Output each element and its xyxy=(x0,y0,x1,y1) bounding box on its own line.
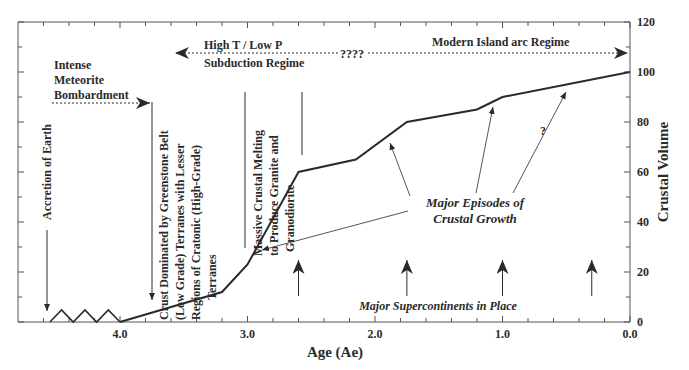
crustal-growth-chart: 4.03.02.01.00.0 020406080100120 Age (Ae)… xyxy=(0,0,689,370)
growth-question-label: ? xyxy=(540,124,546,138)
svg-text:0.0: 0.0 xyxy=(623,327,638,341)
bombardment-label: Intense Meteorite Bombardment xyxy=(54,58,129,102)
svg-text:80: 80 xyxy=(637,115,649,129)
svg-text:Terranes: Terranes xyxy=(205,254,219,300)
growth-label: Major Episodes of Crustal Growth xyxy=(425,195,526,226)
svg-text:2.0: 2.0 xyxy=(368,327,383,341)
svg-text:60: 60 xyxy=(637,165,649,179)
growth-arrow-3 xyxy=(476,107,493,193)
x-axis-tick-labels: 4.03.02.01.00.0 xyxy=(113,327,638,341)
svg-text:0: 0 xyxy=(637,315,643,329)
supercontinents-label: Major Supercontinents in Place xyxy=(358,299,517,313)
svg-text:to Produce Granite and: to Produce Granite and xyxy=(267,135,281,256)
svg-text:3.0: 3.0 xyxy=(240,327,255,341)
regime-unknown-label: ???? xyxy=(340,47,364,61)
svg-text:20: 20 xyxy=(637,265,649,279)
greenstone-label: Crust Dominated by Greenstone Belt(Low G… xyxy=(157,130,219,320)
svg-text:High T / Low P: High T / Low P xyxy=(204,38,282,52)
svg-text:Massive Crustal Melting: Massive Crustal Melting xyxy=(251,130,265,256)
svg-text:Crust Dominated by Greenstone: Crust Dominated by Greenstone Belt xyxy=(157,130,171,320)
x-axis-title: Age (Ae) xyxy=(307,344,363,361)
svg-text:Granodiorite: Granodiorite xyxy=(283,184,297,252)
svg-text:Regions of Cratonic (High-Grad: Regions of Cratonic (High-Grade) xyxy=(189,145,203,320)
y-axis-title: Crustal Volume xyxy=(655,121,671,222)
svg-text:1.0: 1.0 xyxy=(495,327,510,341)
accretion-label: Accretion of Earth xyxy=(40,124,54,220)
svg-text:(Low Grade) Terranes with Less: (Low Grade) Terranes with Lesser xyxy=(173,143,187,320)
svg-text:Meteorite: Meteorite xyxy=(54,73,105,87)
svg-text:40: 40 xyxy=(637,215,649,229)
growth-arrow-4 xyxy=(513,92,566,193)
growth-arrow-2 xyxy=(390,143,410,196)
pre-crust-zigzag xyxy=(50,310,120,322)
regime-left-label: High T / Low P Subduction Regime xyxy=(204,38,305,70)
svg-text:4.0: 4.0 xyxy=(113,327,128,341)
melting-label: Massive Crustal Meltingto Produce Granit… xyxy=(251,130,297,256)
svg-text:Major Episodes of: Major Episodes of xyxy=(425,195,526,210)
y-axis-tick-labels: 020406080100120 xyxy=(637,15,655,329)
y-axis-ticks xyxy=(18,22,630,322)
plot-frame xyxy=(18,22,630,322)
regime-right-label: Modern Island arc Regime xyxy=(432,35,570,49)
svg-text:120: 120 xyxy=(637,15,655,29)
svg-text:Subduction Regime: Subduction Regime xyxy=(204,56,305,70)
svg-text:Bombardment: Bombardment xyxy=(54,88,129,102)
svg-text:100: 100 xyxy=(637,65,655,79)
x-axis-ticks xyxy=(44,22,631,322)
svg-text:Crustal Growth: Crustal Growth xyxy=(433,211,516,226)
svg-text:Intense: Intense xyxy=(54,58,92,72)
supercontinent-arrows xyxy=(299,260,592,296)
